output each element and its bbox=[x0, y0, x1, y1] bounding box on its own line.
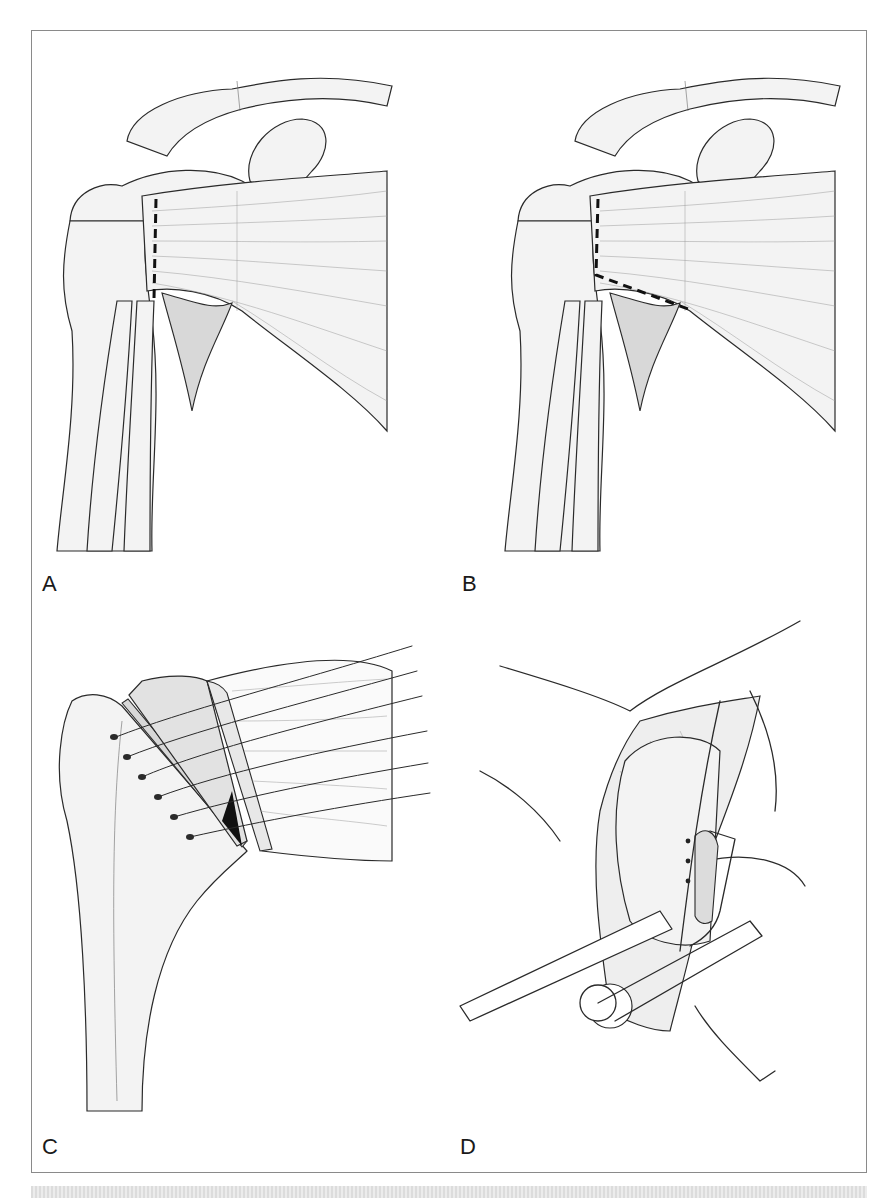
panel-label-d: D bbox=[460, 1136, 476, 1158]
panel-b: B bbox=[450, 31, 868, 611]
panel-c: C bbox=[32, 611, 450, 1174]
shoulder-illustration-b bbox=[450, 31, 868, 611]
figure-frame: A B bbox=[31, 30, 867, 1173]
panel-d: D bbox=[450, 611, 868, 1174]
surgical-exposure-illustration-d bbox=[450, 611, 868, 1174]
shoulder-illustration-a bbox=[32, 31, 450, 611]
panel-label-a: A bbox=[42, 573, 57, 595]
footer-strip bbox=[31, 1186, 867, 1198]
panel-a: A bbox=[32, 31, 450, 611]
panel-label-b: B bbox=[462, 573, 477, 595]
panel-label-c: C bbox=[42, 1136, 58, 1158]
suture-repair-illustration-c bbox=[32, 611, 450, 1174]
